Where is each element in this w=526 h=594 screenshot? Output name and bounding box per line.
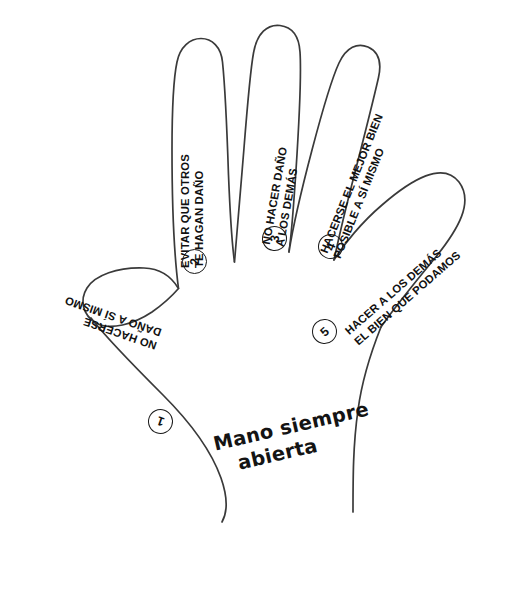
finger-number-2[interactable]: 2 <box>182 249 207 274</box>
finger-number-2-value: 2 <box>188 258 202 265</box>
finger-number-1-value: 1 <box>155 414 166 430</box>
finger-number-3-value: 3 <box>267 234 282 243</box>
finger-number-5-value: 5 <box>317 324 331 339</box>
finger-number-4-value: 4 <box>323 241 339 253</box>
hand-diagram: NO HACERSE DAÑO A SÍ MISMO 1 EVITAR QUE … <box>0 0 526 594</box>
